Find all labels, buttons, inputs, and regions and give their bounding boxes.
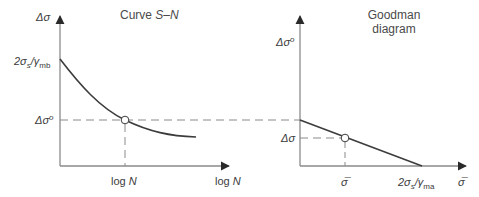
sn-intersection-point xyxy=(121,116,129,124)
sn-curve xyxy=(60,59,196,137)
goodman-line xyxy=(300,120,422,166)
sn-x-tick-log-n: log N xyxy=(111,175,137,187)
goodman-x-axis-label: σ̅ xyxy=(458,176,469,188)
sn-curve-panel: Curve S–N Δσ 2σs/γmb Δσo log N log N xyxy=(13,8,300,187)
sn-title: Curve S–N xyxy=(120,8,179,22)
goodman-y-axis-label: Δσo xyxy=(275,35,295,48)
sn-y-axis-label: Δσ xyxy=(35,11,50,23)
goodman-x-tick-mean-stress: σ̅ xyxy=(341,176,352,188)
goodman-panel: Goodman diagram Δσo Δσ σ̅ 2σs/γma σ̅ xyxy=(275,8,469,191)
sn-goodman-diagram: Curve S–N Δσ 2σs/γmb Δσo log N log N xyxy=(0,0,479,197)
goodman-y-tick-delta-sigma: Δσ xyxy=(280,132,295,144)
goodman-point xyxy=(341,134,349,142)
sn-x-axis-label: log N xyxy=(215,175,241,187)
goodman-x-tick-limit: 2σs/γma xyxy=(397,176,435,191)
sn-y-tick-top: 2σs/γmb xyxy=(13,55,51,70)
goodman-title-line2: diagram xyxy=(372,22,415,36)
sn-y-tick-fatigue-limit: Δσo xyxy=(34,113,54,126)
goodman-title-line1: Goodman xyxy=(368,8,421,22)
